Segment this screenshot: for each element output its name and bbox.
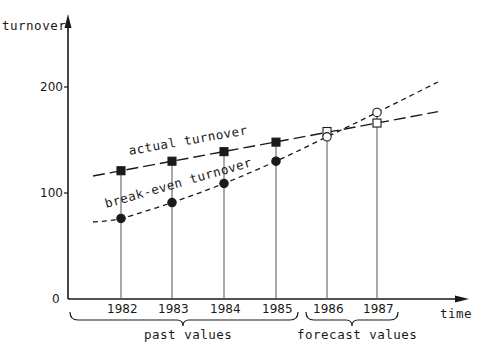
circle-marker-icon (323, 133, 331, 141)
circle-marker-icon (373, 108, 381, 116)
y-tick-label-100: 100 (40, 186, 63, 200)
square-marker-icon (117, 167, 125, 175)
chart-canvas (0, 0, 483, 358)
x-tick-label-1986: 1986 (313, 302, 344, 316)
x-tick-label-1983: 1983 (158, 302, 189, 316)
past-values-label: past values (144, 327, 232, 342)
x-tick-label-1982: 1982 (107, 302, 138, 316)
x-tick-label-1984: 1984 (210, 302, 241, 316)
circle-marker-icon (117, 214, 125, 222)
circle-marker-icon (272, 157, 280, 165)
y-tick-label-200: 200 (40, 80, 63, 94)
square-marker-icon (168, 157, 176, 165)
circle-marker-icon (168, 198, 176, 206)
y-tick-label-0: 0 (52, 292, 60, 306)
forecast-values-label: forecast values (297, 327, 417, 342)
x-axis-label: time (440, 306, 472, 321)
circle-marker-icon (220, 179, 228, 187)
x-axis-arrow-icon (455, 296, 469, 303)
y-axis-label: turnover (2, 18, 66, 33)
square-marker-icon (272, 138, 280, 146)
x-tick-label-1985: 1985 (262, 302, 293, 316)
square-marker-icon (373, 119, 381, 127)
square-marker-icon (220, 148, 228, 156)
x-tick-label-1987: 1987 (363, 302, 394, 316)
